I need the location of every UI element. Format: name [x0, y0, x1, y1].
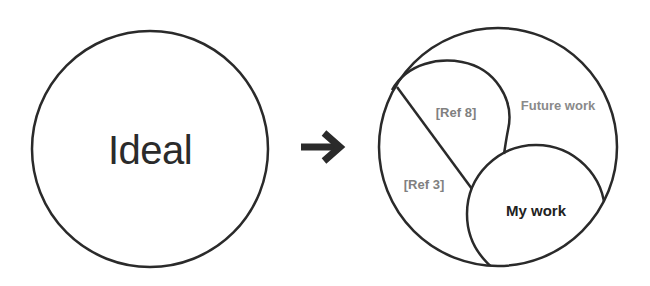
right-arrow-icon	[301, 133, 340, 161]
scope-circle	[379, 28, 617, 266]
ref3-ref8-divider	[397, 87, 472, 189]
ref3-label: [Ref 3]	[404, 177, 444, 192]
my-work-label: My work	[506, 202, 566, 219]
ref8-label: [Ref 8]	[436, 105, 476, 120]
diagram-canvas	[0, 0, 650, 286]
ideal-label: Ideal	[108, 128, 192, 173]
future-work-label: Future work	[521, 98, 595, 113]
